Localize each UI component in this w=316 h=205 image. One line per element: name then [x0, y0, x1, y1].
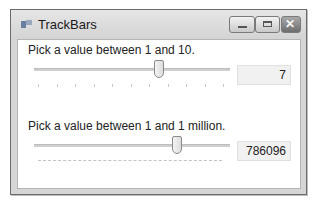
- minimize-button[interactable]: [229, 16, 255, 33]
- trackbar2-track[interactable]: [34, 144, 230, 147]
- app-icon: [21, 20, 32, 29]
- close-icon: ✕: [285, 17, 295, 32]
- trackbar1-value-box[interactable]: 7: [237, 65, 291, 85]
- maximize-icon: [263, 21, 272, 27]
- trackbar1-thumb[interactable]: [154, 60, 164, 78]
- trackbar1-track[interactable]: [34, 68, 230, 71]
- minimize-icon: [238, 26, 247, 28]
- trackbar2-thumb[interactable]: [172, 136, 182, 154]
- close-button[interactable]: ✕: [281, 16, 301, 33]
- trackbars-window: TrackBars ✕ Pick a value between 1 and 1…: [10, 9, 307, 195]
- trackbar2-label: Pick a value between 1 and 1 million.: [28, 119, 225, 133]
- maximize-button[interactable]: [255, 16, 280, 33]
- window-title: TrackBars: [38, 17, 97, 32]
- trackbar1-label: Pick a value between 1 and 10.: [28, 43, 195, 57]
- client-area: Pick a value between 1 and 10. 7 Pick a …: [17, 39, 301, 189]
- title-bar[interactable]: TrackBars ✕: [11, 10, 306, 39]
- trackbar2-ticks: [38, 160, 222, 162]
- trackbar2-value-box[interactable]: 786096: [237, 141, 291, 161]
